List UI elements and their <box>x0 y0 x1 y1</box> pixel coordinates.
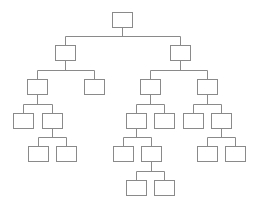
tree-node-root <box>113 13 133 28</box>
edge-RLLR <box>137 161 165 180</box>
tree-node-L <box>56 46 76 61</box>
tree-node-RLLL <box>114 147 134 162</box>
tree-node-RLR <box>155 114 175 129</box>
tree-node-RR <box>198 80 218 95</box>
tree-node-LLR <box>43 114 63 129</box>
edge-root <box>66 27 181 45</box>
tree-node-RRRL <box>198 147 218 162</box>
tree-node-LLRR <box>57 147 77 162</box>
tree-node-RRL <box>184 114 204 129</box>
tree-node-LLL <box>14 114 34 129</box>
edge-LL <box>24 94 53 113</box>
tree-node-R <box>171 46 191 61</box>
tree-node-RRR <box>212 114 232 129</box>
edge-RRR <box>208 128 236 146</box>
tree-node-LL <box>28 80 48 95</box>
edge-L <box>38 60 95 79</box>
tree-node-RLLRR <box>155 181 175 196</box>
edge-RR <box>194 94 222 113</box>
edge-R <box>151 60 208 79</box>
tree-node-RL <box>141 80 161 95</box>
tree-node-RLL <box>127 114 147 129</box>
tree-node-LLRL <box>29 147 49 162</box>
tree-node-RRRR <box>226 147 246 162</box>
edge-RLL <box>124 128 152 146</box>
tree-node-RLLR <box>142 147 162 162</box>
tree-node-LR <box>85 80 105 95</box>
tree-node-RLLRL <box>127 181 147 196</box>
tree-diagram <box>0 0 257 209</box>
edge-LLR <box>39 128 67 146</box>
edge-RL <box>137 94 165 113</box>
